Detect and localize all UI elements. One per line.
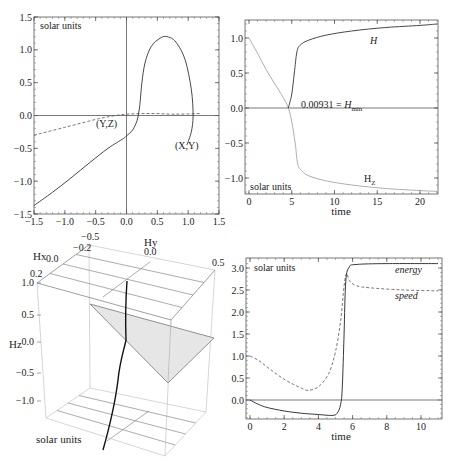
x-tick-label: 0 [247, 196, 252, 207]
x-tick-label: 15 [372, 196, 382, 207]
energy-curve [250, 264, 438, 416]
hz-axis-title: Hz [9, 338, 22, 350]
grid-line [76, 255, 204, 283]
box-edge [165, 412, 206, 456]
x-tick-label: 10 [416, 421, 426, 432]
hy-axis-title: Hy [144, 236, 158, 248]
box-edge [89, 245, 90, 388]
x-axis-title: time [331, 205, 351, 217]
x-tick-label: 6 [350, 421, 355, 432]
solar-units-label: solar units [250, 181, 291, 192]
hx-tick-label: 0.2 [30, 268, 43, 279]
h-label: H [369, 35, 378, 46]
z-tick-label: 0.0 [22, 336, 35, 347]
h-vs-time-plot: 051015201.00.50.0−0.5−1.0H0.00931 = Hmin… [225, 20, 438, 217]
y-tick-label: −1.5 [14, 209, 32, 220]
x-tick-label: 1.0 [182, 216, 195, 227]
yz-label: (Y,Z) [96, 118, 117, 130]
y-tick-label: 0.5 [231, 68, 244, 79]
z-tick-label: −1.0 [16, 395, 34, 406]
x-tick-label: 20 [415, 196, 425, 207]
x-tick-label: 0.0 [120, 216, 133, 227]
solar-units-label: solar units [254, 262, 295, 273]
energy-label: energy [395, 264, 422, 275]
hy-tick-label: 0.5 [212, 257, 225, 268]
hz-label: HZ [364, 173, 376, 187]
box-edge [90, 388, 206, 412]
y-tick-label: 0.5 [20, 77, 33, 88]
x-tick-label: 2 [282, 421, 287, 432]
x-tick-label: 0 [248, 421, 253, 432]
box-edge [171, 270, 215, 320]
figure-canvas: −1.5−1.0−0.50.00.51.01.51.51.00.50.0−0.5… [0, 0, 455, 468]
y-tick-label: 1.5 [232, 329, 245, 340]
x-tick-label: 5 [289, 196, 294, 207]
y-tick-label: −0.5 [14, 143, 32, 154]
y-tick-label: 3.0 [232, 263, 245, 274]
x-tick-label: 0.5 [151, 216, 164, 227]
x-tick-label: 4 [316, 421, 321, 432]
x-tick-label: −1.0 [56, 216, 74, 227]
x-axis-title: time [331, 430, 351, 442]
hx-axis-title: Hx [33, 250, 47, 262]
y-tick-label: 0.0 [20, 110, 33, 121]
y-tick-label: −1.0 [14, 176, 32, 187]
h-curve [288, 24, 437, 108]
hx-tick-label: 0.0 [46, 253, 59, 264]
z-tick-label: 0.5 [22, 309, 35, 320]
y-tick-label: 0.0 [232, 395, 245, 406]
y-tick-label: 1.0 [20, 44, 33, 55]
solar-units-label: solar units [40, 20, 81, 31]
speed-label: speed [395, 290, 419, 301]
y-tick-label: 0.5 [232, 373, 245, 384]
x-tick-label: 1.5 [213, 216, 226, 227]
x-tick-label: −0.5 [87, 216, 105, 227]
y-tick-label: 1.0 [231, 33, 244, 44]
z-tick-label: −0.5 [16, 367, 34, 378]
box-edge [37, 283, 46, 418]
y-tick-label: 0.0 [231, 103, 244, 114]
yz-curve [34, 114, 201, 136]
grid-line [50, 274, 182, 308]
grid-line [107, 411, 149, 441]
h-3d-plot: 1.00.50.0−0.5−1.0−0.20.00.2−0.50.00.5HxH… [9, 231, 225, 456]
xy-label: (X,Y) [175, 140, 199, 152]
x-tick-label: 8 [384, 421, 389, 432]
hz-curve [249, 38, 437, 191]
y-tick-label: −0.5 [225, 138, 243, 149]
energy-speed-plot: 02468103.02.52.01.51.00.50.0solar unitse… [232, 258, 443, 442]
y-tick-label: 1.0 [232, 351, 245, 362]
y-tick-label: 1.5 [20, 12, 33, 23]
shaded-triangle [90, 304, 214, 383]
hy-tick-label: −0.5 [81, 231, 99, 242]
y-tick-label: 2.0 [232, 307, 245, 318]
trajectory-plot: −1.5−1.0−0.50.00.51.01.51.51.00.50.0−0.5… [14, 12, 225, 228]
hx-tick-label: −0.2 [73, 242, 91, 253]
solar-units-label: solar units [36, 433, 82, 445]
hmin-label: 0.00931 = Hmin [301, 99, 363, 113]
grid-line [63, 264, 193, 295]
y-tick-label: −1.0 [225, 173, 243, 184]
y-tick-label: 2.5 [232, 285, 245, 296]
